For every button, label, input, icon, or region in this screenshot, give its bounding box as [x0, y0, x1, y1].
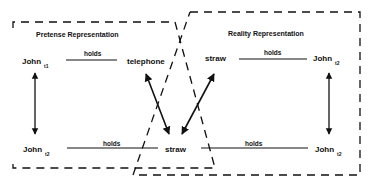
reality-john-top-label: Johnt2	[313, 54, 340, 63]
john-name: John	[22, 57, 41, 66]
john-name: John	[313, 54, 332, 63]
time-subscript: t2	[45, 151, 49, 157]
pretense-john-t1-label: Johnt1	[22, 57, 49, 66]
time-subscript: t2	[337, 151, 341, 157]
straw-straw-mapping-arrow	[182, 74, 214, 134]
pretense-top-holds-label: holds	[84, 50, 101, 57]
john-name: John	[315, 145, 334, 154]
time-subscript: t2	[335, 60, 339, 66]
reality-bottom-holds-label: holds	[245, 140, 262, 147]
pretense-bottom-holds-label: holds	[103, 140, 120, 147]
reality-top-holds-label: holds	[264, 49, 281, 56]
john-name: John	[23, 145, 42, 154]
reality-title: Reality Representation	[228, 30, 304, 37]
pretense-telephone-label: telephone	[127, 57, 165, 66]
reality-john-bottom-label: Johnt2	[315, 145, 342, 154]
diagram-canvas	[0, 0, 375, 191]
pretense-title: Pretense Representation	[36, 31, 118, 38]
reality-straw-label: straw	[205, 54, 226, 63]
straw-bottom-label: straw	[165, 145, 186, 154]
pretense-john-t2-label: Johnt2	[23, 145, 50, 154]
telephone-straw-mapping-arrow	[146, 74, 169, 134]
time-subscript: t1	[44, 63, 48, 69]
